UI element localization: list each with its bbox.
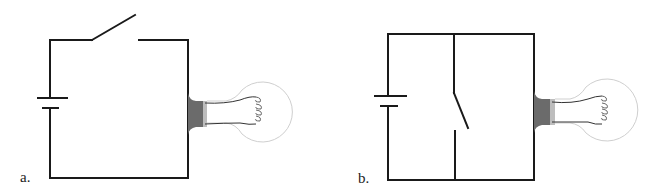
switch-open-icon [454, 93, 468, 128]
switch-open-icon [92, 15, 135, 40]
battery-icon [375, 96, 406, 106]
panel-b: b. [358, 34, 638, 186]
panel-label-b: b. [358, 170, 369, 186]
battery-icon [38, 98, 67, 108]
circuit-diagram: a. b. [0, 0, 665, 195]
wire-loop [50, 40, 188, 178]
panel-label-a: a. [20, 169, 30, 185]
light-bulb-icon [534, 79, 638, 141]
panel-a: a. [20, 15, 292, 185]
light-bulb-icon [188, 82, 292, 142]
wire-left-top [388, 34, 534, 180]
